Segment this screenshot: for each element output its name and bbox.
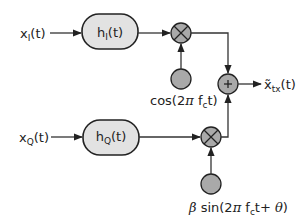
input-quadrature-label: xQ(t) [19,130,49,147]
filter-quadrature-label: hQ(t) [96,129,127,146]
mixer-in-phase [171,23,191,43]
oscillator-in-phase-label: cos(2π fct) [150,93,218,110]
iq-modulator-diagram: xI(t) hI(t) cos(2π fct) x̃tx(t) xQ(t) hQ… [0,0,303,221]
oscillator-quadrature-label: β sin(2π fct+ θ) [188,200,288,217]
adder [218,74,238,94]
input-in-phase-label: xI(t) [20,26,46,43]
oscillator-quadrature [201,174,221,194]
wire-mixer-quadrature-to-adder [221,95,228,137]
output-label: x̃tx(t) [264,77,296,94]
mixer-quadrature [201,127,221,147]
wire-mixer-in-phase-to-adder [191,33,228,73]
oscillator-in-phase [171,69,191,89]
filter-in-phase-label: hI(t) [97,25,123,42]
